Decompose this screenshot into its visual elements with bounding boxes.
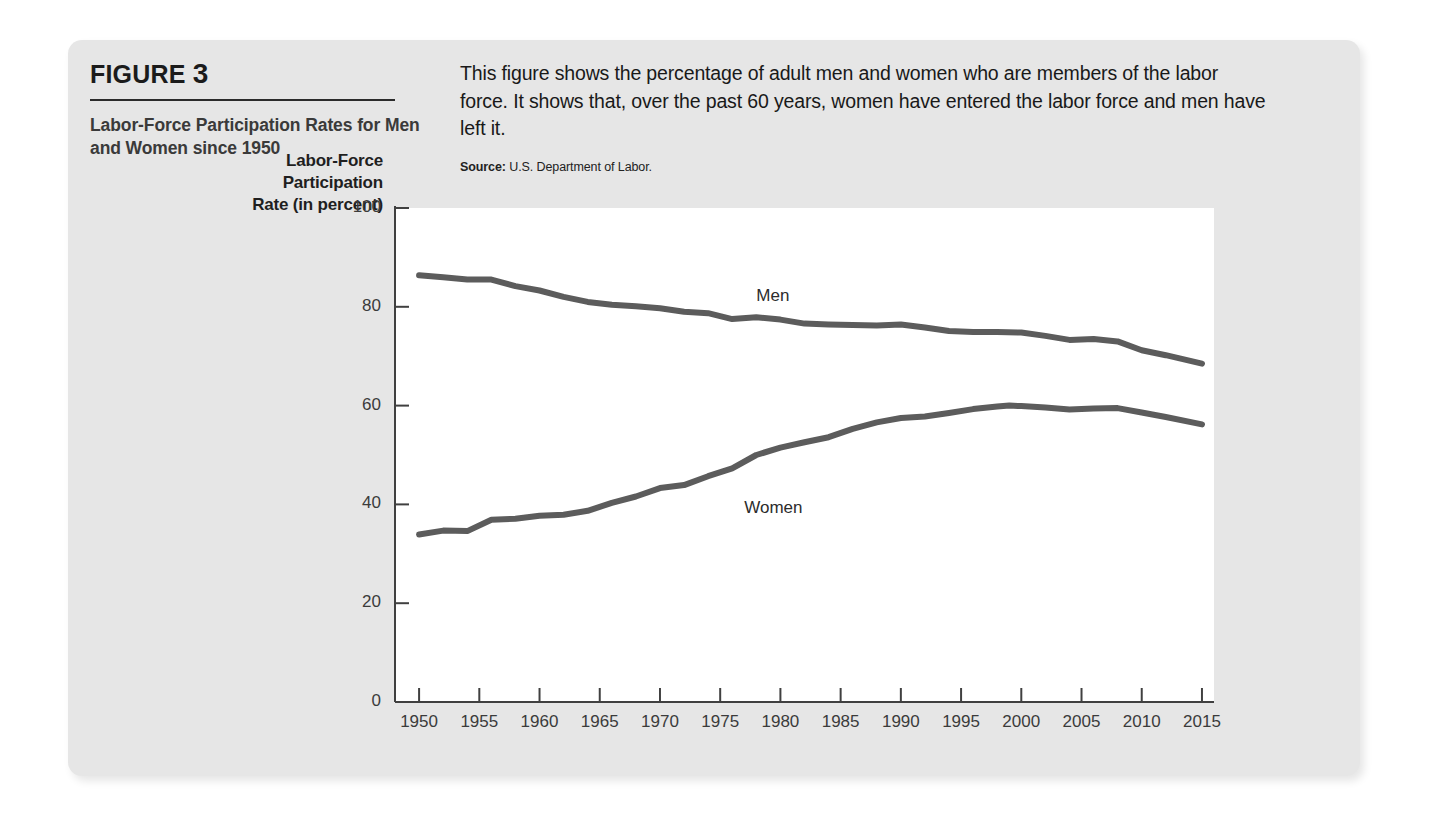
figure-card: FIGURE 3 Labor-Force Participation Rates… — [68, 40, 1360, 776]
y-tick-label: 60 — [325, 395, 381, 415]
figure-page: FIGURE 3 Labor-Force Participation Rates… — [0, 0, 1431, 820]
y-tick-label: 80 — [325, 296, 381, 316]
series-line-women — [419, 406, 1202, 535]
y-tick-label: 100 — [325, 197, 381, 217]
series-label-women: Women — [744, 498, 802, 518]
y-tick-label: 20 — [325, 592, 381, 612]
series-label-men: Men — [756, 286, 789, 306]
y-tick-label: 0 — [325, 691, 381, 711]
y-tick-label: 40 — [325, 493, 381, 513]
series-line-men — [419, 275, 1202, 363]
chart-area: Labor-ForceParticipationRate (in percent… — [68, 40, 1360, 776]
x-tick-label: 2015 — [1167, 712, 1237, 732]
